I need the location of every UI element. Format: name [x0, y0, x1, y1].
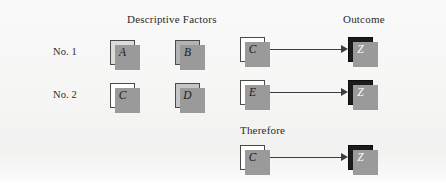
column-header-descriptive-factors: Descriptive Factors: [127, 13, 217, 25]
arrow-conclusion-head: [341, 153, 348, 161]
factor-box-a[interactable]: A: [110, 40, 135, 65]
conclusion-box-c[interactable]: C: [240, 145, 265, 170]
section-label-therefore: Therefore: [240, 124, 285, 136]
column-header-outcome: Outcome: [343, 13, 385, 25]
arrow-conclusion: [266, 153, 348, 162]
factor-box-e-label: E: [249, 86, 256, 98]
factor-box-c-row2[interactable]: C: [110, 83, 135, 108]
factor-box-d-label: D: [183, 89, 191, 101]
arrow-row1-shaft: [266, 49, 341, 50]
factor-box-c-row2-label: C: [119, 89, 127, 101]
arrow-row2-head: [341, 88, 348, 96]
arrow-row1-head: [341, 45, 348, 53]
outcome-box-z-row1[interactable]: Z: [348, 37, 373, 62]
factor-box-e[interactable]: E: [240, 80, 265, 105]
factor-box-c-row1-label: C: [249, 43, 257, 55]
factor-box-b-label: B: [184, 46, 191, 58]
arrow-row2: [266, 88, 348, 97]
row-label-no-1: No. 1: [53, 46, 77, 57]
arrow-row1: [266, 45, 348, 54]
factor-box-b[interactable]: B: [175, 40, 200, 65]
row-label-no-2: No. 2: [53, 89, 77, 100]
conclusion-box-z-label: Z: [357, 151, 363, 163]
conclusion-box-z[interactable]: Z: [348, 145, 373, 170]
factor-box-c-row1[interactable]: C: [240, 37, 265, 62]
factor-box-a-label: A: [119, 46, 126, 58]
conclusion-box-c-label: C: [249, 151, 257, 163]
outcome-box-z-row2[interactable]: Z: [348, 80, 373, 105]
diagram-canvas: Descriptive Factors Outcome No. 1 A B C …: [0, 0, 446, 184]
factor-box-d[interactable]: D: [175, 83, 200, 108]
arrow-row2-shaft: [266, 92, 341, 93]
outcome-box-z-row1-label: Z: [357, 43, 363, 55]
arrow-conclusion-shaft: [266, 157, 341, 158]
outcome-box-z-row2-label: Z: [357, 86, 363, 98]
